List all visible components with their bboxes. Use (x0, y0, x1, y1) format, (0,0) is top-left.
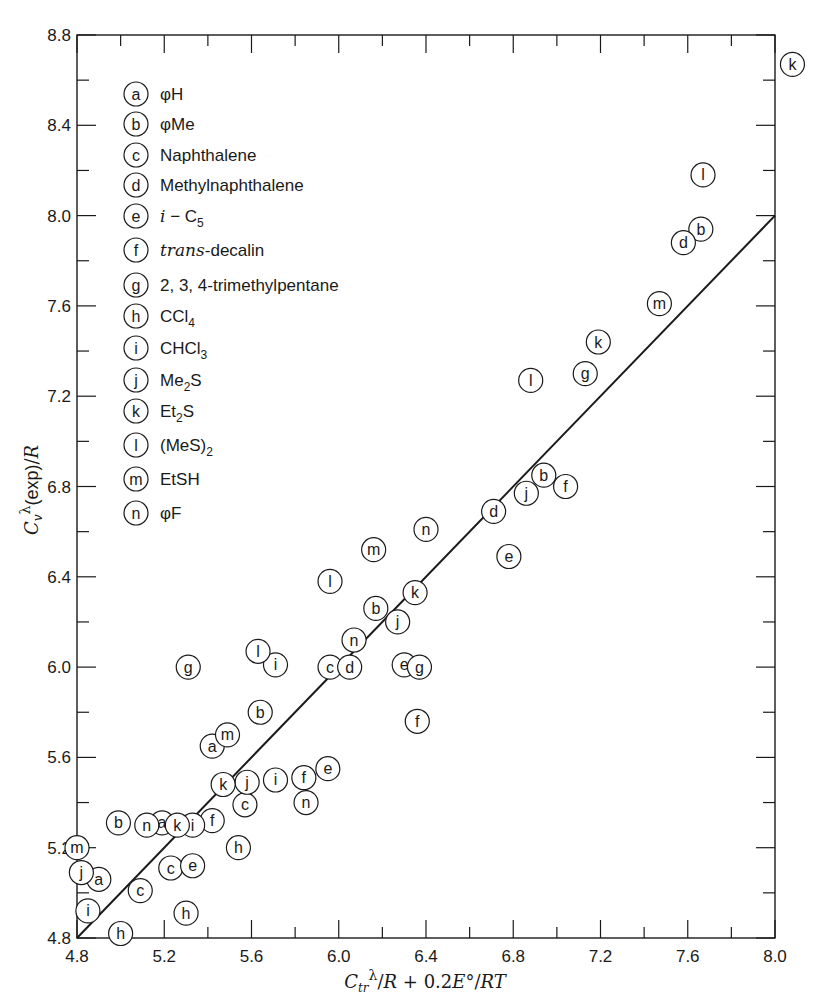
legend-marker-g: g (124, 273, 148, 297)
x-tick-label: 6.4 (414, 947, 438, 966)
x-tick-label: 4.8 (65, 947, 89, 966)
x-tick-label: 7.6 (676, 947, 700, 966)
svg-text:i: i (274, 656, 278, 673)
svg-text:c: c (326, 659, 334, 676)
legend-marker-e: e (124, 204, 148, 228)
data-point-d: d (671, 231, 695, 255)
svg-text:h: h (182, 905, 191, 922)
legend-label-i: CHCl3 (160, 339, 208, 362)
data-point-j: j (69, 861, 93, 885)
legend-marker-c: c (124, 143, 148, 167)
data-point-m: m (65, 836, 89, 860)
svg-text:f: f (302, 769, 307, 786)
svg-text:m: m (221, 726, 234, 743)
scatter-chart: 4.85.25.66.06.46.87.27.68.04.85.25.66.06… (0, 0, 822, 1008)
svg-text:c: c (167, 860, 175, 877)
svg-text:e: e (504, 548, 513, 565)
svg-text:f: f (210, 812, 215, 829)
svg-text:l: l (256, 643, 260, 660)
data-point-m: m (362, 538, 386, 562)
svg-text:c: c (136, 882, 144, 899)
svg-text:g: g (415, 659, 424, 676)
data-point-f: f (405, 709, 429, 733)
y-axis-title: Cvλ(exp)/R (17, 445, 45, 535)
svg-text:g: g (581, 365, 590, 382)
svg-text:a: a (94, 871, 103, 888)
data-point-c: c (128, 879, 152, 903)
y-tick-label: 4.8 (47, 929, 71, 948)
svg-text:e: e (323, 760, 332, 777)
data-point-m: m (216, 723, 240, 747)
svg-text:h: h (132, 308, 141, 325)
data-point-k: k (586, 330, 610, 354)
svg-text:d: d (345, 659, 354, 676)
svg-text:n: n (350, 632, 359, 649)
data-point-k: k (780, 52, 804, 76)
svg-text:j: j (395, 613, 400, 630)
data-point-f: f (554, 475, 578, 499)
svg-text:g: g (132, 277, 141, 294)
legend-marker-m: m (124, 467, 148, 491)
svg-text:n: n (142, 817, 151, 834)
svg-text:d: d (679, 234, 688, 251)
svg-text:b: b (114, 814, 123, 831)
legend-label-a: φH (160, 85, 183, 104)
svg-text:f: f (134, 242, 139, 259)
data-point-c: c (233, 793, 257, 817)
svg-text:d: d (132, 177, 141, 194)
data-point-h: h (174, 901, 198, 925)
svg-text:f: f (563, 478, 568, 495)
data-point-j: j (514, 481, 538, 505)
legend-label-n: φF (160, 504, 181, 523)
svg-text:i: i (86, 902, 90, 919)
legend-marker-l: l (124, 433, 148, 457)
y-tick-label: 8.8 (47, 26, 71, 45)
legend-marker-n: n (124, 501, 148, 525)
svg-text:h: h (116, 925, 125, 942)
x-tick-label: 6.0 (327, 947, 351, 966)
data-point-c: c (159, 856, 183, 880)
svg-text:k: k (594, 334, 603, 351)
data-point-d: d (338, 655, 362, 679)
svg-text:b: b (256, 704, 265, 721)
data-point-b: b (248, 700, 272, 724)
legend-label-f: trans-decalin (160, 240, 264, 260)
svg-text:j: j (244, 774, 249, 791)
data-point-g: g (176, 655, 200, 679)
y-tick-label: 6.4 (47, 568, 71, 587)
svg-text:n: n (132, 505, 141, 522)
data-point-e: e (181, 854, 205, 878)
legend-label-l: (MeS)2 (160, 436, 213, 459)
x-tick-label: 8.0 (763, 947, 787, 966)
x-tick-label: 5.2 (152, 947, 176, 966)
data-point-i: i (76, 899, 100, 923)
y-tick-label: 7.6 (47, 297, 71, 316)
data-point-m: m (647, 292, 671, 316)
svg-text:m: m (367, 541, 380, 558)
svg-text:l: l (701, 166, 705, 183)
svg-text:i: i (274, 771, 278, 788)
data-point-h: h (226, 836, 250, 860)
svg-text:j: j (79, 864, 84, 881)
data-point-b: b (364, 596, 388, 620)
svg-text:i: i (191, 817, 195, 834)
legend-label-m: EtSH (160, 470, 200, 489)
data-point-j: j (386, 610, 410, 634)
data-point-n: n (135, 813, 159, 837)
data-point-j: j (235, 770, 259, 794)
legend-label-g: 2, 3, 4-trimethylpentane (160, 276, 339, 295)
x-tick-label: 6.8 (501, 947, 525, 966)
y-tick-label: 6.8 (47, 478, 71, 497)
data-point-e: e (316, 757, 340, 781)
y-tick-label: 7.2 (47, 387, 71, 406)
legend-marker-a: a (124, 82, 148, 106)
legend-label-d: Methylnaphthalene (160, 176, 304, 195)
data-point-k: k (403, 581, 427, 605)
data-point-d: d (482, 499, 506, 523)
data-point-h: h (109, 921, 133, 945)
svg-text:j: j (133, 372, 138, 389)
svg-text:j: j (524, 485, 529, 502)
svg-text:c: c (241, 796, 249, 813)
x-tick-label: 7.2 (589, 947, 613, 966)
svg-text:l: l (134, 437, 138, 454)
